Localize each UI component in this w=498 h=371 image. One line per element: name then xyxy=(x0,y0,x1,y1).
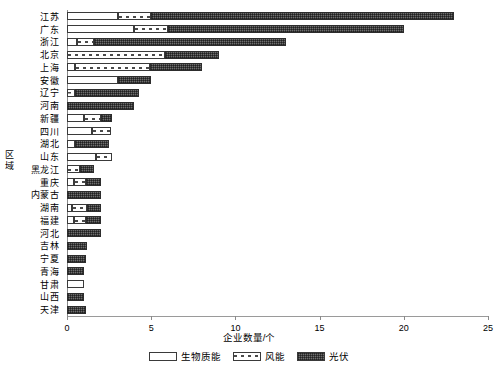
bar-segment xyxy=(86,216,101,224)
bar-segment xyxy=(74,216,86,224)
x-tick-25 xyxy=(488,316,489,320)
y-label-17: 河北 xyxy=(40,230,59,239)
bar-segment xyxy=(72,204,87,212)
bar-segment xyxy=(168,25,404,33)
bar-segment xyxy=(67,229,101,237)
y-label-21: 甘肃 xyxy=(40,281,59,290)
chart-legend: 生物质能 风能 光伏 xyxy=(0,349,498,363)
bar-segment xyxy=(67,178,74,186)
bar-segment xyxy=(80,165,93,173)
y-label-14: 内蒙古 xyxy=(31,191,60,200)
y-label-18: 吉林 xyxy=(40,242,59,251)
x-tick-20 xyxy=(404,316,405,320)
bar-segment xyxy=(75,89,139,97)
x-tick-15 xyxy=(320,316,321,320)
bar-segment xyxy=(67,280,84,288)
x-tick-0 xyxy=(67,316,68,320)
y-label-7: 河南 xyxy=(40,102,59,111)
y-label-3: 北京 xyxy=(40,51,59,60)
y-label-19: 宁夏 xyxy=(40,255,59,264)
y-label-2: 浙江 xyxy=(40,38,59,47)
bar-segment xyxy=(165,51,219,59)
legend-swatch-wind-icon xyxy=(233,352,261,361)
bar-segment xyxy=(67,102,134,110)
bar-segment xyxy=(101,114,113,122)
bar-segment xyxy=(67,255,86,263)
x-axis-title: 企业数量/个 xyxy=(0,330,498,344)
y-label-12: 黑龙江 xyxy=(31,166,60,175)
y-label-16: 福建 xyxy=(40,217,59,226)
bar-segment xyxy=(92,127,111,135)
bar-segment xyxy=(67,267,84,275)
legend-item-photovoltaic: 光伏 xyxy=(297,349,349,363)
bar-segment xyxy=(74,178,86,186)
bar-segment xyxy=(67,76,118,84)
y-label-15: 湖南 xyxy=(40,204,59,213)
y-label-20: 青海 xyxy=(40,268,59,277)
y-label-4: 上海 xyxy=(40,64,59,73)
bar-segment xyxy=(77,38,94,46)
bar-segment xyxy=(134,25,168,33)
bar-segment xyxy=(118,12,152,20)
bar-segment xyxy=(67,25,134,33)
bar-segment xyxy=(87,204,100,212)
legend-item-wind: 风能 xyxy=(233,349,285,363)
y-label-11: 山东 xyxy=(40,153,59,162)
bar-segment xyxy=(96,153,113,161)
bar-segment xyxy=(67,114,84,122)
y-label-23: 天津 xyxy=(40,306,59,315)
bar-segment xyxy=(75,63,149,71)
bar-segment xyxy=(67,293,84,301)
bar-segment xyxy=(67,51,165,59)
legend-label-photovoltaic: 光伏 xyxy=(329,349,349,363)
y-label-13: 重庆 xyxy=(40,179,59,188)
stacked-bar-chart: 区 域 江苏广东浙江北京上海安徽辽宁河南新疆四川湖北山东黑龙江重庆内蒙古湖南福建… xyxy=(0,0,498,371)
y-label-6: 辽宁 xyxy=(40,89,59,98)
bar-segment xyxy=(84,114,101,122)
legend-swatch-photovoltaic-icon xyxy=(297,352,325,361)
bar-segment xyxy=(67,89,75,97)
y-label-22: 山西 xyxy=(40,293,59,302)
y-label-9: 四川 xyxy=(40,128,59,137)
x-tick-10 xyxy=(235,316,236,320)
x-tick-5 xyxy=(151,316,152,320)
legend-item-biomass: 生物质能 xyxy=(149,349,221,363)
bar-segment xyxy=(67,242,87,250)
bar-segment xyxy=(94,38,286,46)
y-label-5: 安徽 xyxy=(40,77,59,86)
bar-segment xyxy=(67,153,96,161)
legend-swatch-biomass-icon xyxy=(149,352,177,361)
bar-segment xyxy=(67,140,75,148)
bar-segment xyxy=(67,63,75,71)
legend-label-biomass: 生物质能 xyxy=(181,349,221,363)
bar-segment xyxy=(67,216,74,224)
x-axis-line xyxy=(67,316,488,317)
bar-segment xyxy=(150,63,202,71)
bar-segment xyxy=(67,191,101,199)
y-label-8: 新疆 xyxy=(40,115,59,124)
legend-label-wind: 风能 xyxy=(265,349,285,363)
y-label-0: 江苏 xyxy=(40,13,59,22)
bar-segment xyxy=(75,140,109,148)
bar-segment xyxy=(118,76,152,84)
y-label-1: 广东 xyxy=(40,26,59,35)
bar-segment xyxy=(67,12,118,20)
plot-area: 0510152025 xyxy=(67,10,488,316)
bar-segment xyxy=(67,306,86,314)
bar-segment xyxy=(67,127,92,135)
bar-segment xyxy=(151,12,454,20)
bar-segment xyxy=(67,165,80,173)
bar-segment xyxy=(86,178,101,186)
y-label-10: 湖北 xyxy=(40,140,59,149)
y-axis-category-labels: 江苏广东浙江北京上海安徽辽宁河南新疆四川湖北山东黑龙江重庆内蒙古湖南福建河北吉林… xyxy=(0,10,63,316)
bar-segment xyxy=(67,38,77,46)
